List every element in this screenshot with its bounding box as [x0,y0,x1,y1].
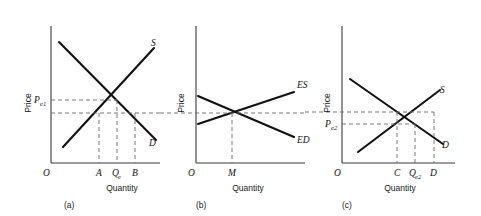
panel-c-supply-curve [358,90,440,152]
panel-b-excess-demand-curve [198,96,294,137]
panel-b: ES ED O M Quantity Price (b) [160,26,310,210]
panel-a-supply-curve [63,48,154,147]
panel-c: S D P e2 O C Q e2 D Quantity Price (c) [305,26,455,210]
panel-b-excess-supply-curve [198,92,294,124]
panel-c-origin-label: O [334,168,341,178]
panel-a-y-axis-label: Price [23,93,33,113]
panel-a-x-axis-label: Quantity [106,183,138,193]
figure-canvas: S D P e1 O A Q e B Quantity Price (a) ES… [0,0,481,216]
panel-c-tick-d: D [429,168,437,178]
panel-a-origin-label: O [43,168,50,178]
panel-c-price-sub: e2 [331,124,338,131]
panel-c-x-axis-label: Quantity [384,183,416,193]
panel-a-demand-label: D [148,138,156,148]
supply-demand-figure: S D P e1 O A Q e B Quantity Price (a) ES… [0,0,481,216]
panel-b-x-axis-label: Quantity [232,183,264,193]
panel-a-demand-curve [59,42,156,140]
panel-a-tick-b: B [132,168,138,178]
panel-a-price-sub: e1 [40,100,46,107]
panel-c-supply-label: S [440,85,445,95]
panel-b-excess-supply-label: ES [296,80,308,90]
panel-a-supply-label: S [151,38,156,48]
panel-a: S D P e1 O A Q e B Quantity Price (a) [23,26,160,210]
panel-b-origin-label: O [188,168,195,178]
panel-c-y-axis-label: Price [322,93,332,113]
panel-a-tick-qe-sub: e [118,173,121,180]
panel-b-excess-demand-label: ED [296,135,310,145]
panel-c-caption: (c) [342,200,352,210]
panel-c-tick-qe2-sub: e2 [415,173,422,180]
panel-a-caption: (a) [64,200,75,210]
panel-b-caption: (b) [196,200,207,210]
panel-a-tick-a: A [95,168,102,178]
panel-c-tick-c: C [394,168,401,178]
panel-c-demand-label: D [441,140,449,150]
panel-c-price-label: P [324,119,331,129]
panel-a-price-label: P [33,95,40,105]
panel-b-tick-m: M [227,168,237,178]
panel-b-y-axis-label: Price [176,93,186,113]
panel-c-demand-curve [350,79,443,144]
